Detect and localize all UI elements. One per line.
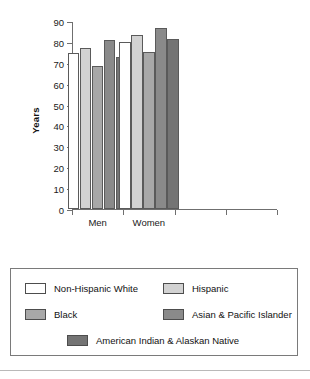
legend-row: American Indian & Alaskan Native bbox=[11, 327, 297, 353]
x-tick-label: Women bbox=[133, 217, 166, 228]
bar bbox=[104, 40, 116, 209]
legend-item[interactable]: Hispanic bbox=[163, 275, 228, 301]
x-tick bbox=[175, 210, 176, 215]
x-tick bbox=[226, 210, 227, 215]
bar bbox=[167, 39, 179, 209]
y-tick-label: 10 bbox=[38, 184, 64, 195]
y-tick-label: 20 bbox=[38, 163, 64, 174]
y-tick-label: 80 bbox=[38, 37, 64, 48]
x-tick bbox=[123, 210, 124, 215]
bar bbox=[80, 48, 92, 209]
y-tick-label: 0 bbox=[38, 205, 64, 216]
bar bbox=[155, 28, 167, 209]
y-tick-label: 90 bbox=[38, 17, 64, 28]
x-tick bbox=[277, 210, 278, 215]
legend-swatch-icon bbox=[25, 283, 46, 294]
legend-item[interactable]: Black bbox=[25, 301, 77, 327]
legend-label: Hispanic bbox=[192, 283, 228, 294]
y-tick-label: 50 bbox=[38, 100, 64, 111]
legend-item[interactable]: American Indian & Alaskan Native bbox=[67, 327, 239, 353]
legend-swatch-icon bbox=[25, 309, 46, 320]
bar bbox=[68, 53, 80, 209]
plot-area: 9080706050403020100 MenWomen bbox=[72, 22, 277, 210]
x-tick bbox=[72, 210, 73, 215]
legend-label: Non-Hispanic White bbox=[54, 283, 138, 294]
chart-legend: Non-Hispanic WhiteHispanicBlackAsian & P… bbox=[10, 268, 298, 356]
legend-label: Black bbox=[54, 309, 77, 320]
bar-chart: Years 9080706050403020100 MenWomen bbox=[0, 0, 310, 258]
y-tick bbox=[67, 43, 72, 44]
bar bbox=[119, 42, 131, 209]
legend-swatch-icon bbox=[163, 309, 184, 320]
y-tick-label: 40 bbox=[38, 121, 64, 132]
footer-divider bbox=[0, 370, 310, 371]
y-tick bbox=[67, 22, 72, 23]
legend-swatch-icon bbox=[67, 335, 88, 346]
legend-row: Non-Hispanic WhiteHispanic bbox=[11, 275, 297, 301]
y-tick-label: 70 bbox=[38, 58, 64, 69]
y-tick-label: 60 bbox=[38, 79, 64, 90]
bar bbox=[131, 35, 143, 209]
legend-label: American Indian & Alaskan Native bbox=[96, 335, 239, 346]
legend-swatch-icon bbox=[163, 283, 184, 294]
legend-item[interactable]: Asian & Pacific Islander bbox=[163, 301, 292, 327]
legend-row: BlackAsian & Pacific Islander bbox=[11, 301, 297, 327]
legend-item[interactable]: Non-Hispanic White bbox=[25, 275, 138, 301]
bar bbox=[143, 52, 155, 209]
y-tick-label: 30 bbox=[38, 142, 64, 153]
bar bbox=[92, 66, 104, 209]
x-tick-label: Men bbox=[88, 217, 106, 228]
legend-label: Asian & Pacific Islander bbox=[192, 309, 292, 320]
